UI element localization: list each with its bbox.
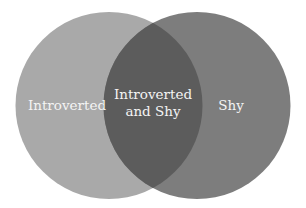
label-overlap-line1: Introverted <box>114 86 193 102</box>
label-overlap-line2: and Shy <box>125 103 181 119</box>
label-shy: Shy <box>218 97 244 113</box>
label-introverted: Introverted <box>28 97 107 113</box>
venn-diagram: Introverted Introverted and Shy Shy <box>0 0 306 208</box>
